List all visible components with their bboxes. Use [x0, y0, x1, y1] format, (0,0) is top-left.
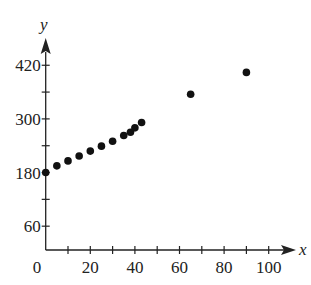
- data-point: [109, 137, 117, 145]
- x-tick-label: 20: [82, 258, 99, 277]
- x-tick-label: 0: [33, 258, 42, 277]
- x-tick-label: 80: [216, 258, 233, 277]
- y-tick-label: 420: [15, 56, 41, 75]
- data-points: [42, 69, 250, 177]
- x-tick-label: 100: [256, 258, 282, 277]
- axes: [41, 38, 296, 255]
- data-point: [120, 132, 128, 140]
- data-point: [53, 162, 61, 170]
- data-point: [243, 69, 251, 77]
- data-point: [138, 119, 146, 127]
- y-axis-arrow-icon: [41, 38, 51, 54]
- scatter-chart: 02040608010060180300420 x y: [0, 0, 311, 285]
- data-point: [187, 91, 195, 99]
- y-axis-label: y: [38, 15, 48, 34]
- ticks: [42, 65, 269, 254]
- y-tick-label: 60: [24, 217, 41, 236]
- data-point: [64, 157, 72, 165]
- x-tick-label: 40: [126, 258, 143, 277]
- y-tick-label: 300: [15, 110, 41, 129]
- x-tick-label: 60: [171, 258, 188, 277]
- data-point: [42, 169, 50, 177]
- data-point: [98, 142, 106, 150]
- data-point: [75, 152, 83, 160]
- x-axis-label: x: [298, 240, 307, 259]
- data-point: [87, 147, 95, 155]
- y-tick-label: 180: [15, 164, 41, 183]
- data-point: [131, 124, 139, 132]
